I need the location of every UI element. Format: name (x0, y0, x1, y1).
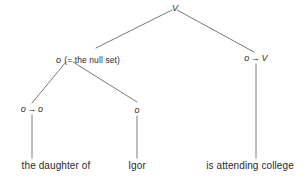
right-arrow-icon: → (26, 104, 38, 114)
category-tree-figure: V o(= the null set) o→V o→o o the daught… (0, 0, 308, 179)
edge-root-to-predicate (177, 10, 254, 52)
node-determiner-right: o (38, 104, 43, 114)
node-predicate: o→V (244, 54, 268, 63)
leaf-is-attending-college: is attending college (206, 161, 294, 171)
leaf-igor: Igor (128, 161, 146, 171)
node-predicate-right: V (262, 53, 268, 63)
edge-root-to-subject (96, 10, 172, 48)
node-determiner: o→o (21, 105, 44, 114)
edge-subject-to-argument (73, 62, 137, 102)
node-subject-gloss: (= the null set) (61, 55, 120, 65)
node-root: V (172, 4, 178, 13)
edge-subject-to-determiner (32, 62, 66, 103)
leaf-the-daughter-of: the daughter of (22, 161, 91, 171)
right-arrow-icon: → (249, 53, 261, 63)
tree-edges (0, 0, 308, 179)
node-subject: o(= the null set) (56, 50, 120, 66)
node-argument: o (134, 106, 139, 115)
